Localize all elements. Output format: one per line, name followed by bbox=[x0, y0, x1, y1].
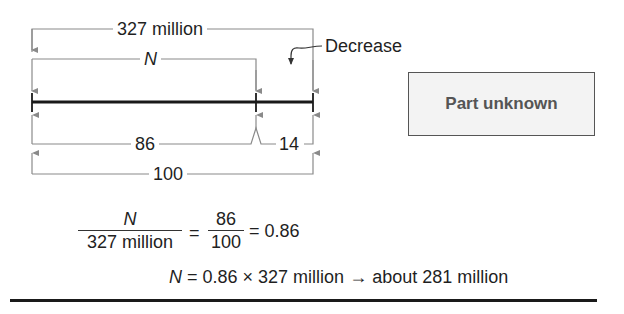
solution-result: about 281 million bbox=[372, 267, 508, 287]
equals-sign: = bbox=[189, 223, 200, 244]
total-label: 327 million bbox=[113, 20, 207, 38]
ratio-result: = 0.86 bbox=[249, 221, 300, 242]
fraction-numerator: N bbox=[78, 209, 182, 229]
solution-line: N = 0.86 × 327 million → about 281 milli… bbox=[169, 267, 508, 288]
decrease-label: Decrease bbox=[323, 37, 406, 55]
arrow-right-icon: → bbox=[349, 267, 367, 287]
fraction-bar bbox=[208, 230, 244, 231]
number-line bbox=[32, 93, 313, 112]
percent-part-bracket bbox=[32, 115, 313, 144]
decrease-arrow-icon bbox=[291, 46, 322, 64]
part-label: N bbox=[140, 50, 161, 68]
variable-n: N bbox=[169, 267, 182, 287]
fraction-numerator: 86 bbox=[208, 209, 244, 229]
fraction-86-over-100: 86 100 bbox=[208, 209, 244, 252]
fraction-n-over-total: N 327 million bbox=[78, 209, 182, 252]
fraction-denominator: 100 bbox=[208, 232, 244, 252]
part-unknown-box: Part unknown bbox=[408, 72, 595, 136]
fraction-bar bbox=[78, 230, 182, 231]
part-unknown-label: Part unknown bbox=[445, 94, 557, 114]
percent-total-label: 100 bbox=[149, 165, 187, 183]
percent-part-label: 86 bbox=[131, 135, 159, 153]
fraction-denominator: 327 million bbox=[78, 232, 182, 252]
bottom-rule-divider bbox=[10, 299, 597, 302]
percent-decrease-label: 14 bbox=[276, 135, 302, 153]
solution-expression: = 0.86 × 327 million bbox=[187, 267, 344, 287]
